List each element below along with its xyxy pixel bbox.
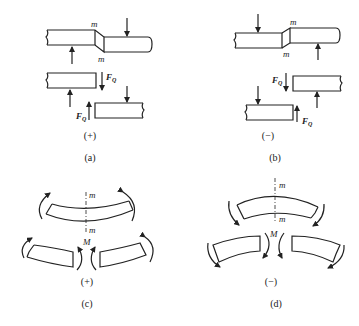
section-label-a-top: m — [91, 19, 98, 29]
free-body-d-left — [213, 236, 260, 262]
caption-a: (a) — [84, 152, 95, 164]
moment-label-d: M — [269, 229, 278, 239]
moment-arrow-ccw-icon — [279, 233, 284, 258]
free-body-b-right — [293, 76, 342, 91]
force-label-b-1: FQ — [271, 75, 283, 86]
free-body-c-left — [27, 245, 73, 267]
caption-d: (d) — [270, 298, 282, 310]
section-label-a-bottom: m — [98, 54, 105, 64]
moment-arrow-cw-icon — [91, 247, 96, 270]
free-body-c-right — [100, 243, 146, 267]
free-body-a-right — [95, 103, 144, 118]
section-label-c-top: m — [89, 190, 96, 200]
moment-arrow-cw-icon — [263, 233, 269, 258]
diagram-canvas: m m FQ FQ (+) (a) m m — [0, 0, 359, 326]
caption-b: (b) — [269, 152, 281, 164]
section-label-b-top: m — [290, 17, 297, 27]
section-label-d-top: m — [279, 180, 286, 190]
free-body-d-right — [292, 236, 340, 262]
beam-b-deformed — [234, 28, 340, 48]
moment-arrow-ccw-icon — [328, 245, 344, 268]
force-label-a-1: FQ — [105, 72, 117, 83]
caption-c: (c) — [81, 298, 92, 310]
moment-arrow-ccw-icon — [22, 238, 32, 258]
section-label-c-bottom: m — [89, 225, 96, 235]
panel-c-moment-positive: m m M (+) (c) — [22, 190, 153, 310]
moment-label-c: M — [82, 237, 91, 247]
beam-d-hogging — [237, 196, 318, 219]
moment-arrow-ccw-icon — [77, 247, 82, 270]
panel-b-shear-negative: m m FQ FQ (−) (b) — [234, 14, 342, 164]
sign-label-a: (+) — [84, 130, 96, 142]
sign-label-d: (−) — [265, 276, 277, 288]
moment-arrow-cw-icon — [313, 204, 324, 226]
moment-arrow-cw-icon — [145, 237, 153, 262]
panel-a-shear-positive: m m FQ FQ (+) (a) — [46, 18, 152, 164]
free-body-b-left — [245, 105, 293, 120]
panel-d-moment-negative: m m M (−) (d) — [208, 178, 344, 310]
beam-a-deformed — [46, 30, 152, 52]
beam-c-sagging — [46, 201, 133, 221]
sign-label-b: (−) — [262, 130, 274, 142]
force-label-b-2: FQ — [301, 116, 313, 127]
section-label-b-bottom: m — [283, 49, 290, 59]
section-label-d-bottom: m — [279, 214, 286, 224]
free-body-a-left — [46, 73, 96, 88]
sign-label-c: (+) — [81, 276, 93, 288]
force-label-a-2: FQ — [75, 111, 87, 122]
moment-arrow-cw-icon — [123, 192, 135, 221]
